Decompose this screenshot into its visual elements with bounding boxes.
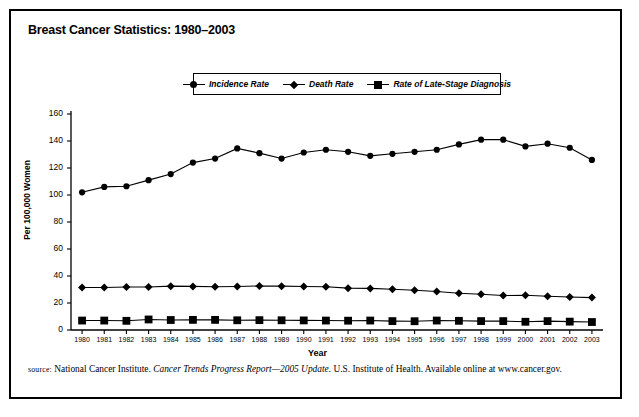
y-tick-label: 20 bbox=[37, 297, 63, 307]
y-tick-label: 100 bbox=[37, 189, 63, 199]
data-point-marker bbox=[78, 317, 86, 325]
data-point-marker bbox=[100, 317, 108, 325]
data-point-marker bbox=[168, 171, 174, 177]
data-point-marker bbox=[521, 291, 529, 299]
data-point-marker bbox=[589, 157, 595, 163]
source-text-2: U.S. Institute of Health. Available onli… bbox=[331, 364, 562, 374]
source-note: source: National Cancer Institute. Cance… bbox=[28, 363, 590, 377]
data-point-marker bbox=[278, 155, 284, 161]
plot-area: Per 100,000 Women Year 02040608010012014… bbox=[11, 11, 624, 401]
data-point-marker bbox=[522, 318, 530, 326]
data-point-marker bbox=[300, 317, 308, 325]
x-axis-label: Year bbox=[11, 348, 624, 358]
data-point-marker bbox=[278, 282, 286, 290]
x-tick-label: 2003 bbox=[579, 336, 605, 343]
data-point-marker bbox=[300, 283, 308, 291]
data-point-marker bbox=[322, 283, 330, 291]
data-point-marker bbox=[499, 292, 507, 300]
data-point-marker bbox=[566, 318, 574, 326]
data-point-marker bbox=[588, 294, 596, 302]
data-point-marker bbox=[322, 317, 330, 325]
data-point-marker bbox=[411, 149, 417, 155]
y-tick-label: 60 bbox=[37, 243, 63, 253]
data-point-marker bbox=[544, 141, 550, 147]
y-axis-label: Per 100,000 Women bbox=[22, 140, 32, 260]
data-point-marker bbox=[478, 137, 484, 143]
data-point-marker bbox=[211, 283, 219, 291]
data-point-marker bbox=[388, 285, 396, 293]
data-point-marker bbox=[323, 147, 329, 153]
data-point-marker bbox=[301, 149, 307, 155]
data-point-marker bbox=[434, 147, 440, 153]
data-point-marker bbox=[122, 283, 130, 291]
data-point-marker bbox=[344, 284, 352, 292]
y-tick-label: 160 bbox=[37, 108, 63, 118]
data-point-marker bbox=[123, 183, 129, 189]
data-point-marker bbox=[167, 282, 175, 290]
source-text-1: National Cancer Institute. bbox=[52, 364, 153, 374]
data-point-marker bbox=[344, 317, 352, 325]
y-tick-label: 80 bbox=[37, 216, 63, 226]
data-point-marker bbox=[123, 317, 131, 325]
data-point-marker bbox=[477, 317, 485, 325]
data-point-marker bbox=[544, 292, 552, 300]
data-point-marker bbox=[345, 149, 351, 155]
data-point-marker bbox=[145, 177, 151, 183]
data-point-marker bbox=[567, 145, 573, 151]
data-point-marker bbox=[167, 316, 175, 324]
y-tick-label: 0 bbox=[37, 324, 63, 334]
data-point-marker bbox=[189, 316, 197, 324]
data-point-marker bbox=[566, 293, 574, 301]
data-point-marker bbox=[522, 143, 528, 149]
source-title: Cancer Trends Progress Report—2005 Updat… bbox=[153, 364, 331, 374]
data-point-marker bbox=[433, 317, 441, 325]
data-point-marker bbox=[212, 155, 218, 161]
data-point-marker bbox=[588, 318, 596, 326]
data-point-marker bbox=[255, 282, 263, 290]
data-point-marker bbox=[500, 137, 506, 143]
data-point-marker bbox=[100, 283, 108, 291]
data-point-marker bbox=[499, 317, 507, 325]
data-point-marker bbox=[366, 284, 374, 292]
data-point-marker bbox=[233, 283, 241, 291]
data-point-marker bbox=[256, 150, 262, 156]
data-point-marker bbox=[366, 317, 374, 325]
figure-container: Breast Cancer Statistics: 1980–2003 Inci… bbox=[9, 9, 622, 399]
data-point-marker bbox=[190, 160, 196, 166]
data-point-marker bbox=[145, 283, 153, 291]
data-point-marker bbox=[256, 316, 264, 324]
data-point-marker bbox=[367, 153, 373, 159]
data-point-marker bbox=[189, 282, 197, 290]
data-point-marker bbox=[455, 289, 463, 297]
data-point-marker bbox=[411, 317, 419, 325]
data-point-marker bbox=[433, 288, 441, 296]
data-point-marker bbox=[477, 290, 485, 298]
data-point-marker bbox=[101, 184, 107, 190]
data-point-marker bbox=[455, 317, 463, 325]
data-point-marker bbox=[544, 317, 552, 325]
y-tick-label: 120 bbox=[37, 162, 63, 172]
data-point-marker bbox=[79, 189, 85, 195]
data-point-marker bbox=[145, 316, 153, 324]
data-point-marker bbox=[389, 151, 395, 157]
data-point-marker bbox=[211, 316, 219, 324]
data-point-marker bbox=[78, 283, 86, 291]
data-point-marker bbox=[411, 286, 419, 294]
y-tick-label: 40 bbox=[37, 270, 63, 280]
data-point-marker bbox=[456, 141, 462, 147]
data-point-marker bbox=[389, 317, 397, 325]
data-point-marker bbox=[233, 316, 241, 324]
y-tick-label: 140 bbox=[37, 135, 63, 145]
data-point-marker bbox=[278, 316, 286, 324]
source-prefix: source: bbox=[28, 365, 52, 374]
data-point-marker bbox=[234, 145, 240, 151]
